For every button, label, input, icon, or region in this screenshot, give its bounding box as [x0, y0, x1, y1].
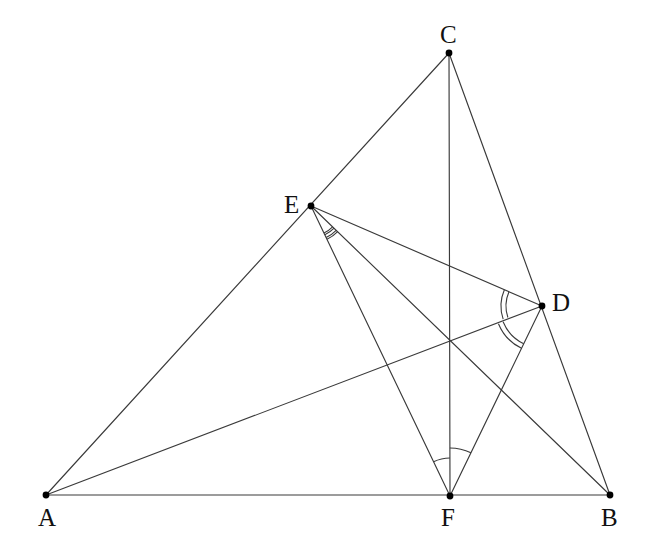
angle-mark-F-inner-arc-1	[434, 458, 450, 462]
angle-mark-D-lower	[498, 322, 523, 348]
vertex-dot-c	[446, 50, 453, 57]
vertex-label-b: B	[601, 505, 618, 530]
vertex-dots-layer	[43, 50, 614, 500]
vertex-dot-f	[447, 493, 454, 500]
angle-mark-D-upper-arc-2	[501, 290, 504, 319]
vertex-dot-b	[607, 492, 614, 499]
angle-mark-F-outer-arc-1	[450, 448, 471, 453]
angle-mark-D-lower-arc-1	[503, 322, 524, 344]
segment-ED	[311, 206, 542, 306]
segment-AC	[46, 53, 449, 495]
geometry-figure: ABCDEF	[0, 0, 651, 550]
vertex-label-e: E	[284, 192, 299, 217]
angle-mark-F-outer	[450, 448, 471, 453]
vertex-label-f: F	[441, 505, 455, 530]
angle-mark-D-upper	[501, 290, 509, 319]
geometry-canvas	[0, 0, 651, 550]
angle-marks-layer	[324, 227, 524, 462]
angle-mark-E-outer-arc-1	[324, 227, 333, 233]
vertex-label-c: C	[440, 22, 457, 47]
angle-mark-F-inner	[434, 458, 450, 462]
segment-EB	[311, 206, 610, 495]
vertex-dot-e	[308, 203, 315, 210]
vertex-label-a: A	[38, 505, 56, 530]
segment-CB	[449, 53, 610, 495]
angle-mark-D-upper-arc-1	[506, 292, 509, 318]
segment-AD	[46, 306, 542, 495]
vertex-dot-d	[539, 303, 546, 310]
segment-DF	[450, 306, 542, 496]
segment-EF	[311, 206, 450, 496]
segments-layer	[46, 53, 610, 496]
vertex-label-d: D	[552, 290, 570, 315]
segment-CF	[449, 53, 450, 496]
vertex-dot-a	[43, 492, 50, 499]
angle-mark-D-lower-arc-2	[498, 324, 521, 349]
